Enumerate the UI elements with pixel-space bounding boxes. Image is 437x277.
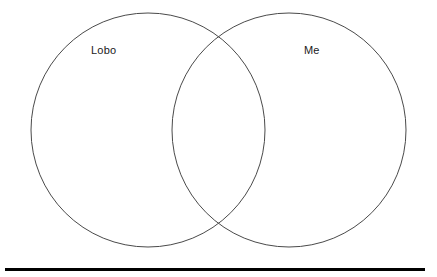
venn-diagram-canvas (0, 0, 437, 277)
venn-label-right: Me (304, 44, 320, 56)
horizontal-divider-rule (5, 268, 425, 271)
venn-circle-left (31, 13, 265, 247)
venn-diagram-page: Lobo Me (0, 0, 437, 277)
venn-label-left: Lobo (91, 44, 116, 56)
venn-circle-right (172, 13, 406, 247)
